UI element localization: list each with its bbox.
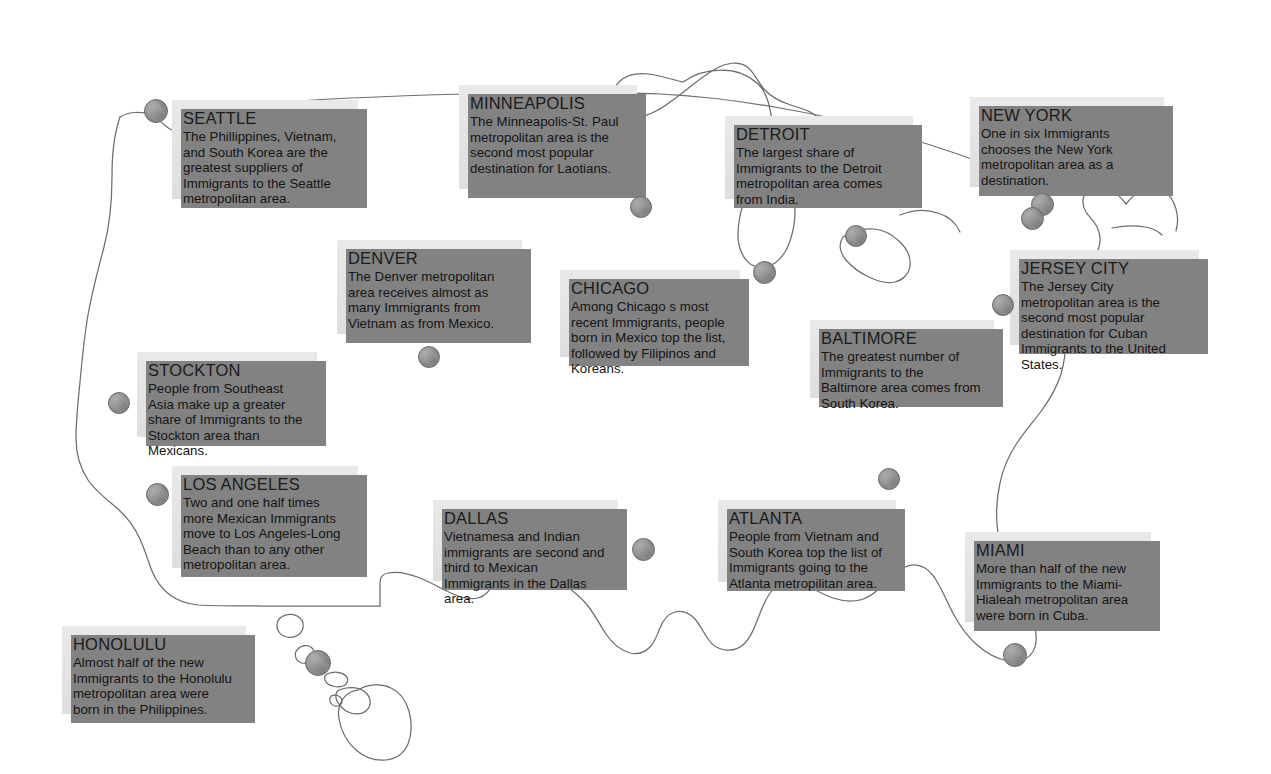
dot-stockton[interactable] [108, 392, 130, 414]
hawaii-molokai [325, 672, 348, 687]
callout-text-chicago: Among Chicago s most recent Immigrants, … [571, 299, 729, 377]
callout-text-baltimore: The greatest number of Immigrants to the… [821, 349, 983, 411]
callout-city-atlanta: ATLANTA [729, 509, 885, 528]
callout-jersey-city[interactable]: JERSEY CITY The Jersey City metropolitan… [1010, 250, 1199, 345]
callout-honolulu[interactable]: HONOLULU Almost half of the new Immigran… [62, 626, 246, 714]
callout-detroit[interactable]: DETROIT The largest share of Immigrants … [725, 116, 913, 199]
dot-los-angeles[interactable] [146, 483, 169, 506]
callout-city-miami: MIAMI [976, 541, 1140, 560]
callout-city-minneapolis: MINNEAPOLIS [470, 94, 626, 113]
callout-seattle[interactable]: SEATTLE The Phillippines, Vietnam, and S… [172, 100, 358, 199]
hawaii-big-island [339, 685, 412, 760]
callout-text-stockton: People from Southeast Asia make up a gre… [148, 381, 306, 459]
callout-city-honolulu: HONOLULU [73, 635, 235, 654]
callout-city-new-york: NEW YORK [981, 106, 1153, 125]
long-island [1112, 226, 1162, 235]
callout-text-minneapolis: The Minneapolis-St. Paul metropolitan ar… [470, 114, 626, 176]
map-infographic: SEATTLE The Phillippines, Vietnam, and S… [0, 0, 1271, 774]
dot-denver[interactable] [418, 346, 440, 368]
dot-honolulu[interactable] [305, 650, 331, 676]
callout-text-jersey-city: The Jersey City metropolitan area is the… [1021, 279, 1188, 373]
callout-new-york[interactable]: NEW YORK One in six Immigrants chooses t… [970, 97, 1164, 187]
callout-city-detroit: DETROIT [736, 125, 902, 144]
dot-dallas[interactable] [632, 538, 655, 561]
hawaii-kauai [277, 614, 303, 637]
dot-chicago[interactable] [753, 261, 776, 284]
dot-new-york[interactable] [1021, 207, 1044, 230]
dot-seattle[interactable] [144, 99, 168, 123]
callout-text-los-angeles: Two and one half times more Mexican Immi… [183, 495, 347, 573]
callout-text-atlanta: People from Vietnam and South Korea top … [729, 529, 885, 591]
callout-atlanta[interactable]: ATLANTA People from Vietnam and South Ko… [718, 500, 896, 582]
callout-text-detroit: The largest share of Immigrants to the D… [736, 145, 902, 207]
callout-minneapolis[interactable]: MINNEAPOLIS The Minneapolis-St. Paul met… [459, 85, 637, 189]
callout-miami[interactable]: MIAMI More than half of the new Immigran… [965, 532, 1151, 622]
callout-city-los-angeles: LOS ANGELES [183, 475, 347, 494]
callout-city-denver: DENVER [348, 249, 511, 268]
dot-miami[interactable] [1003, 643, 1027, 667]
callout-city-baltimore: BALTIMORE [821, 329, 983, 348]
callout-city-seattle: SEATTLE [183, 109, 347, 128]
callout-city-dallas: DALLAS [444, 509, 607, 528]
callout-text-dallas: Vietnamesa and Indian immigrants are sec… [444, 529, 607, 607]
callout-stockton[interactable]: STOCKTON People from Southeast Asia make… [137, 352, 317, 437]
dot-minneapolis[interactable] [630, 196, 652, 218]
callout-chicago[interactable]: CHICAGO Among Chicago s most recent Immi… [560, 270, 740, 357]
callout-text-new-york: One in six Immigrants chooses the New Yo… [981, 126, 1153, 188]
dot-jersey-city[interactable] [992, 294, 1014, 316]
dot-baltimore[interactable] [878, 468, 900, 490]
callout-text-miami: More than half of the new Immigrants to … [976, 561, 1140, 623]
callout-dallas[interactable]: DALLAS Vietnamesa and Indian immigrants … [433, 500, 618, 581]
callout-denver[interactable]: DENVER The Denver metropolitan area rece… [337, 240, 522, 334]
lake-erie [900, 211, 960, 232]
callout-city-stockton: STOCKTON [148, 361, 306, 380]
callout-text-honolulu: Almost half of the new Immigrants to the… [73, 655, 235, 717]
dot-detroit[interactable] [845, 225, 867, 247]
callout-text-denver: The Denver metropolitan area receives al… [348, 269, 511, 331]
callout-los-angeles[interactable]: LOS ANGELES Two and one half times more … [172, 466, 358, 568]
callout-text-seattle: The Phillippines, Vietnam, and South Kor… [183, 129, 347, 207]
callout-city-chicago: CHICAGO [571, 279, 729, 298]
callout-baltimore[interactable]: BALTIMORE The greatest number of Immigra… [810, 320, 994, 398]
callout-city-jersey-city: JERSEY CITY [1021, 259, 1188, 278]
